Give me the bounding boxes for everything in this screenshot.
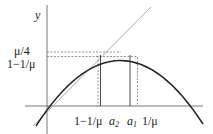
x-tick-one-over-mu: 1/μ: [142, 114, 158, 128]
x-tick-fixed-point: 1−1/μ: [74, 114, 103, 128]
identity-line: [33, 7, 151, 126]
logistic-map-diagram: y μ/4 1−1/μ 1−1/μ a2 a1 1/μ: [0, 0, 213, 134]
y-tick-mu-over-4: μ/4: [14, 44, 30, 58]
y-axis-label: y: [34, 8, 41, 22]
parabola-curve: [36, 60, 203, 126]
x-tick-a1: a1: [127, 114, 137, 129]
x-tick-a2: a2: [109, 114, 119, 129]
y-tick-fixed-point: 1−1/μ: [7, 57, 36, 71]
